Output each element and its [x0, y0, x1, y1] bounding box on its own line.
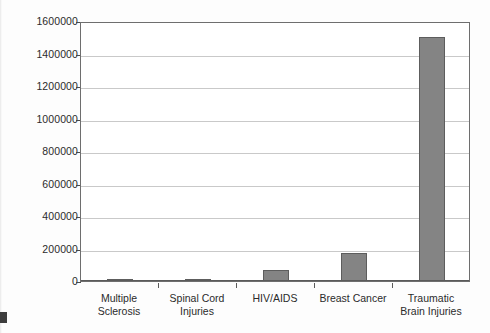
y-axis-tick-label: 200000: [42, 244, 78, 255]
x-axis-category-label-line: Multiple: [74, 292, 164, 305]
x-axis-category-label: MultipleSclerosis: [74, 292, 164, 318]
scan-edge-shadow: [0, 0, 2, 333]
scan-artifact-mark: [0, 312, 7, 323]
y-axis-tick-label: 1400000: [36, 49, 78, 60]
gridline: [81, 218, 469, 219]
y-axis-tick-label: 1200000: [36, 81, 78, 92]
y-axis-tick-label: 800000: [42, 146, 78, 157]
x-axis-category-label: Breast Cancer: [308, 292, 398, 305]
x-axis-category-label-line: HIV/AIDS: [230, 292, 320, 305]
gridline: [81, 186, 469, 187]
x-axis-category-label: TraumaticBrain Injuries: [386, 292, 476, 318]
y-axis-tick-label: 1000000: [36, 114, 78, 125]
y-axis-tick-label: 1600000: [36, 16, 78, 27]
y-axis-tick-label: 400000: [42, 211, 78, 222]
x-axis-category-label: Spinal CordInjuries: [152, 292, 242, 318]
x-axis-category-label-line: Traumatic: [386, 292, 476, 305]
gridline: [81, 153, 469, 154]
gridline: [81, 251, 469, 252]
x-axis-tick-mark: [392, 283, 393, 288]
x-axis-tick-mark: [236, 283, 237, 288]
gridline: [81, 121, 469, 122]
gridline: [81, 88, 469, 89]
y-axis-tick-label: 600000: [42, 179, 78, 190]
x-axis-category-label-line: Injuries: [152, 305, 242, 318]
x-axis-category-label-line: Sclerosis: [74, 305, 164, 318]
gridline: [81, 56, 469, 57]
chart-page: 0200000400000600000800000100000012000001…: [0, 0, 490, 333]
x-axis-tick-mark: [314, 283, 315, 288]
x-axis-category-label-line: Spinal Cord: [152, 292, 242, 305]
x-axis-category-label-line: Breast Cancer: [308, 292, 398, 305]
x-axis-tick-mark: [158, 283, 159, 288]
plot-area: [80, 22, 470, 282]
x-axis-baseline: [81, 280, 469, 281]
bar: [341, 253, 367, 281]
x-axis-category-label-line: Brain Injuries: [386, 305, 476, 318]
bar: [419, 37, 445, 281]
x-axis-category-label: HIV/AIDS: [230, 292, 320, 305]
